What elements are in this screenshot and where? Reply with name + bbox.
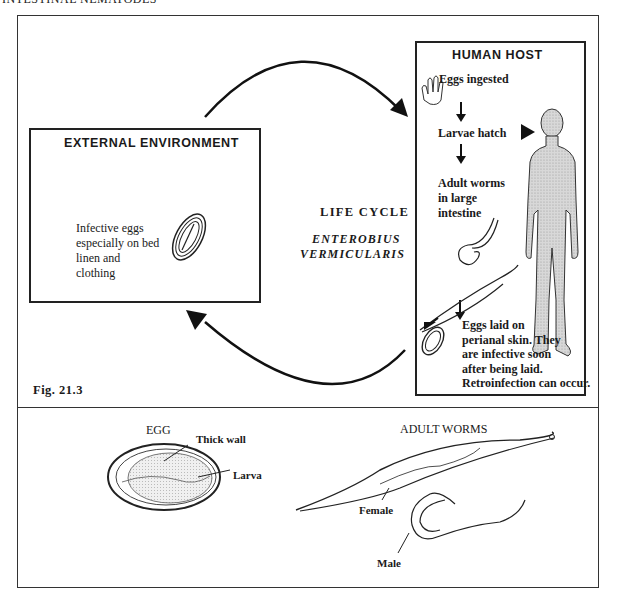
- description-line: Infective eggs: [76, 221, 159, 236]
- host-step-adult-worms: Adult worms in large intestine: [438, 176, 505, 221]
- arrow-to-host-icon: [205, 62, 408, 117]
- step-line: intestine: [438, 206, 505, 221]
- adult-worms-title: ADULT WORMS: [400, 422, 487, 437]
- step-line: after being laid.: [462, 362, 590, 377]
- external-environment-title: EXTERNAL ENVIRONMENT: [64, 136, 239, 150]
- host-step-eggs-ingested: Eggs ingested: [439, 72, 509, 87]
- description-line: linen and: [76, 251, 159, 266]
- pointer-triangle-icon: [521, 124, 535, 140]
- life-cycle-heading: LIFE CYCLE ENTEROBIUS VERMICULARIS: [300, 205, 440, 262]
- human-host-title: HUMAN HOST: [452, 48, 543, 62]
- worm-label-male: Male: [377, 556, 401, 571]
- step-line: are infective soon: [462, 347, 590, 362]
- species-name-line1: ENTEROBIUS: [312, 232, 440, 247]
- step-line: Retroinfection can occur.: [462, 376, 590, 391]
- arrow-to-environment-icon: [186, 310, 405, 384]
- male-worm-icon: [398, 493, 525, 553]
- host-step-larvae-hatch: Larvae hatch: [438, 126, 506, 141]
- figure-label: Fig. 21.3: [33, 383, 83, 398]
- worm-label-female: Female: [359, 503, 393, 518]
- diagram-graphics: [0, 0, 617, 599]
- egg-title: EGG: [146, 423, 171, 438]
- host-step-eggs-laid: Eggs laid on perianal skin. They are inf…: [462, 318, 590, 391]
- step-line: Adult worms: [438, 176, 505, 191]
- female-worm-icon: [296, 432, 555, 511]
- species-name-line2: VERMICULARIS: [300, 247, 440, 262]
- egg-label-larva: Larva: [233, 468, 262, 483]
- life-cycle-title: LIFE CYCLE: [320, 205, 440, 220]
- description-line: clothing: [76, 266, 159, 281]
- external-environment-description: Infective eggs especially on bed linen a…: [76, 221, 159, 281]
- description-line: especially on bed: [76, 236, 159, 251]
- step-line: in large: [438, 191, 505, 206]
- egg-label-thick-wall: Thick wall: [196, 432, 246, 447]
- step-line: Eggs laid on: [462, 318, 590, 333]
- egg-diagram-icon: [108, 444, 230, 510]
- step-line: perianal skin. They: [462, 333, 590, 348]
- egg-environment-icon: [166, 209, 212, 265]
